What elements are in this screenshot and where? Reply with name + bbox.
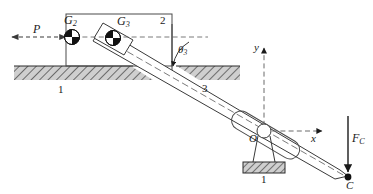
pivot-ground-base (243, 162, 285, 173)
pivot-circle (257, 124, 271, 138)
label-ground-left: 1 (58, 84, 64, 95)
label-theta3: θ3 (178, 44, 187, 57)
label-point-c: C (346, 180, 353, 191)
label-ground-pivot: 1 (261, 174, 267, 185)
label-cg-g2-sub: 2 (73, 19, 77, 28)
label-link-2: 2 (160, 15, 166, 26)
label-theta3-sub: 3 (183, 48, 187, 57)
label-force-fc-sub: C (359, 137, 364, 146)
mechanism-diagram: P G2 G3 2 3 1 1 θ3 y x O C FC (0, 0, 373, 194)
label-force-fc: FC (352, 132, 365, 146)
ground-hatch-left (14, 66, 153, 80)
link-3-rod (93, 28, 348, 179)
label-origin-o: O (249, 133, 257, 144)
cg-symbol-g2 (65, 30, 80, 45)
label-link-3: 3 (202, 83, 208, 94)
label-axis-x: x (311, 133, 316, 144)
cg-symbol-g3 (106, 31, 121, 46)
label-cg-g3-sub: 3 (126, 20, 130, 29)
label-force-p: P (33, 23, 40, 35)
diagram-canvas (0, 0, 373, 194)
ground-hatch-right (177, 66, 240, 80)
label-cg-g3: G3 (117, 15, 130, 29)
ground-band-top (14, 66, 240, 80)
label-cg-g2: G2 (64, 14, 77, 28)
label-axis-y: y (254, 42, 259, 53)
